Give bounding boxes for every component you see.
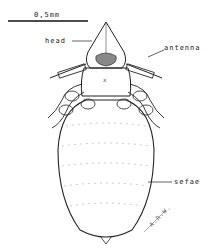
label-setae: sefae <box>174 178 200 186</box>
label-antenna: antenna <box>164 44 201 52</box>
scale-bar-label: 0,5mm <box>34 11 60 19</box>
svg-text:x: x <box>103 76 107 83</box>
louse-illustration: x <box>0 0 212 252</box>
label-head: head <box>45 37 66 45</box>
